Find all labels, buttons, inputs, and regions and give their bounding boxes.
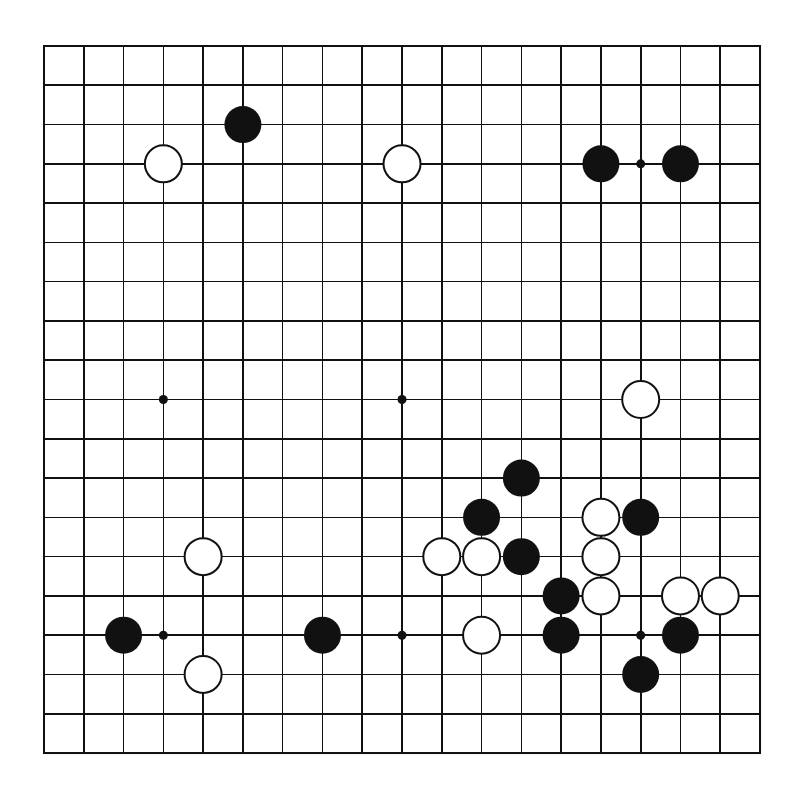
star-point bbox=[398, 631, 407, 640]
black-stone[interactable] bbox=[582, 145, 619, 182]
white-stone[interactable] bbox=[662, 577, 699, 614]
black-stone[interactable] bbox=[463, 499, 500, 536]
white-stone[interactable] bbox=[423, 538, 460, 575]
star-point bbox=[159, 395, 168, 404]
go-board[interactable] bbox=[0, 0, 805, 795]
white-stone[interactable] bbox=[463, 617, 500, 654]
white-stone[interactable] bbox=[463, 538, 500, 575]
star-point bbox=[159, 631, 168, 640]
black-stone[interactable] bbox=[543, 617, 580, 654]
white-stone[interactable] bbox=[582, 538, 619, 575]
white-stone[interactable] bbox=[185, 656, 222, 693]
black-stone[interactable] bbox=[503, 538, 540, 575]
white-stone[interactable] bbox=[702, 577, 739, 614]
black-stone[interactable] bbox=[224, 106, 261, 143]
black-stone[interactable] bbox=[622, 499, 659, 536]
black-stone[interactable] bbox=[105, 617, 142, 654]
white-stone[interactable] bbox=[384, 145, 421, 182]
white-stone[interactable] bbox=[185, 538, 222, 575]
star-point bbox=[398, 395, 407, 404]
black-stone[interactable] bbox=[304, 617, 341, 654]
go-board-svg[interactable] bbox=[0, 0, 805, 795]
white-stone[interactable] bbox=[582, 577, 619, 614]
black-stone[interactable] bbox=[503, 460, 540, 497]
white-stone[interactable] bbox=[622, 381, 659, 418]
white-stone[interactable] bbox=[145, 145, 182, 182]
black-stone[interactable] bbox=[543, 577, 580, 614]
black-stone[interactable] bbox=[662, 145, 699, 182]
star-point bbox=[636, 631, 645, 640]
black-stone[interactable] bbox=[662, 617, 699, 654]
white-stone[interactable] bbox=[582, 499, 619, 536]
black-stone[interactable] bbox=[622, 656, 659, 693]
star-point bbox=[636, 159, 645, 168]
